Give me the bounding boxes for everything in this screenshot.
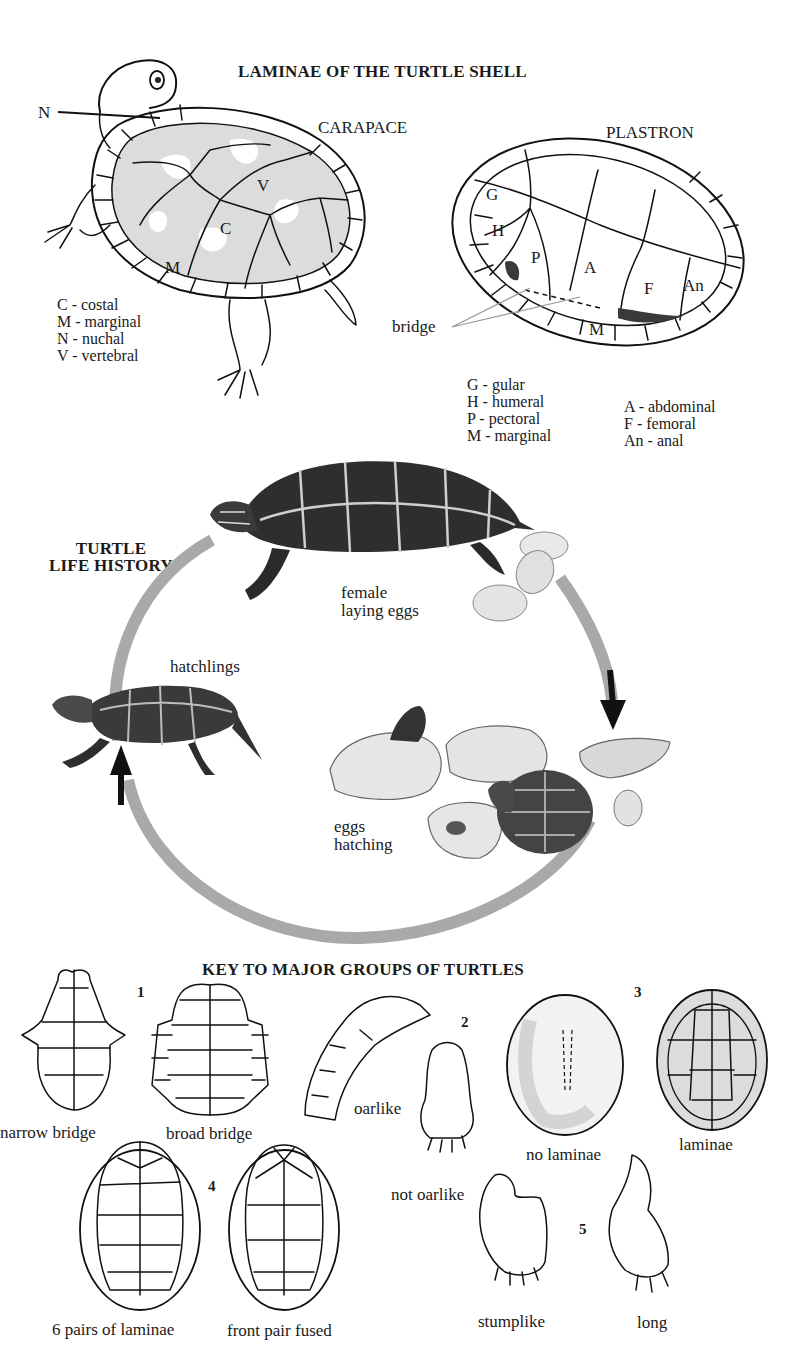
key-option-front-pair-fused: front pair fused <box>227 1322 332 1339</box>
six-pairs-laminae-plastron-icon <box>80 1142 200 1310</box>
key-option-not-oarlike: not oarlike <box>391 1186 464 1203</box>
key-option-long: long <box>637 1314 667 1331</box>
broad-bridge-carapace-icon <box>152 984 268 1115</box>
key-group-4-number: 4 <box>208 1178 216 1195</box>
no-laminae-shell-icon <box>507 995 623 1135</box>
key-option-six-pairs: 6 pairs of laminae <box>52 1321 174 1338</box>
stumplike-foot-icon <box>480 1174 547 1285</box>
key-option-oarlike: oarlike <box>354 1100 401 1117</box>
key-illustrations <box>0 0 794 1364</box>
long-foot-icon <box>609 1155 668 1292</box>
key-group-1-number: 1 <box>137 984 145 1001</box>
key-option-no-laminae: no laminae <box>526 1146 601 1163</box>
key-group-2-number: 2 <box>461 1014 469 1031</box>
key-option-broad-bridge: broad bridge <box>166 1125 252 1142</box>
front-pair-fused-plastron-icon <box>229 1145 339 1310</box>
narrow-bridge-plastron-icon <box>22 970 125 1110</box>
key-group-3-number: 3 <box>634 984 642 1001</box>
key-group-5-number: 5 <box>579 1221 587 1238</box>
key-option-stumplike: stumplike <box>478 1313 545 1330</box>
key-option-laminae: laminae <box>679 1136 733 1153</box>
not-oarlike-leg-icon <box>421 1043 473 1153</box>
laminae-carapace-icon <box>657 990 767 1130</box>
key-option-narrow-bridge: narrow bridge <box>0 1124 96 1141</box>
